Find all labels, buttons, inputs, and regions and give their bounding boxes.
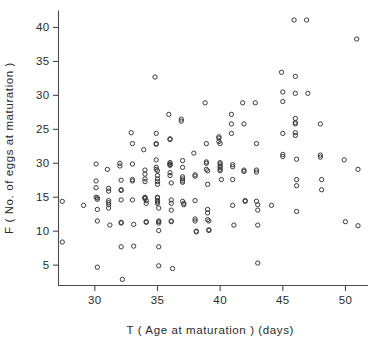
data-point	[94, 179, 98, 183]
data-point-group	[60, 18, 360, 282]
data-point	[293, 74, 297, 78]
data-point	[229, 122, 233, 126]
data-point	[108, 223, 112, 227]
y-tick-label: 35	[36, 55, 50, 67]
plot-canvas: 5101530253035403035404550T ( Age at matu…	[0, 0, 373, 341]
data-point	[319, 177, 323, 181]
x-tick-label: 40	[213, 294, 227, 306]
data-point	[132, 222, 136, 226]
data-point	[105, 167, 109, 171]
data-point	[294, 157, 298, 161]
data-point	[142, 148, 146, 152]
y-axis-title: F ( No. of eggs at maturation )	[3, 62, 15, 234]
data-point	[94, 186, 98, 190]
data-point	[170, 266, 174, 270]
y-tick-label: 10	[36, 225, 50, 237]
y-tick-label: 5	[43, 259, 50, 271]
data-point	[204, 141, 208, 145]
data-point	[281, 99, 285, 103]
data-point	[342, 158, 346, 162]
data-point	[318, 122, 322, 126]
data-point	[304, 18, 308, 22]
data-point	[293, 91, 297, 95]
data-point	[157, 245, 161, 249]
data-point	[180, 158, 184, 162]
data-point	[120, 277, 124, 281]
data-point	[154, 158, 158, 162]
data-point	[293, 133, 297, 137]
data-point	[60, 240, 64, 244]
data-point	[157, 206, 161, 210]
data-point	[306, 91, 310, 95]
data-point	[132, 244, 136, 248]
y-tick-label: 30	[36, 157, 50, 169]
data-point	[193, 198, 197, 202]
data-point	[60, 199, 64, 203]
data-point	[154, 131, 158, 135]
x-tick-label: 35	[151, 294, 165, 306]
data-point	[205, 182, 209, 186]
data-point	[229, 112, 233, 116]
data-point	[130, 198, 134, 202]
data-point	[95, 265, 99, 269]
data-point	[242, 122, 246, 126]
data-point	[153, 75, 157, 79]
x-axis-title: T ( Age at maturation ) (days)	[127, 324, 294, 336]
data-point	[95, 219, 99, 223]
data-point	[355, 37, 359, 41]
data-point	[169, 208, 173, 212]
data-point	[157, 228, 161, 232]
data-point	[95, 207, 99, 211]
data-point	[219, 177, 223, 181]
data-point	[169, 181, 173, 185]
y-tick-label: 15	[36, 191, 50, 203]
data-point	[231, 177, 235, 181]
data-point	[143, 179, 147, 183]
axis-spines	[59, 11, 369, 286]
data-point	[343, 220, 347, 224]
data-point	[119, 178, 123, 182]
data-point	[192, 151, 196, 155]
data-point	[231, 203, 235, 207]
data-point	[319, 188, 323, 192]
data-point	[269, 203, 273, 207]
data-point	[253, 101, 257, 105]
x-tick-label: 45	[276, 294, 290, 306]
y-tick-label: 30	[36, 89, 50, 101]
data-point	[129, 131, 133, 135]
data-point	[167, 112, 171, 116]
data-point	[180, 165, 184, 169]
data-point	[130, 141, 134, 145]
y-tick-label: 25	[36, 123, 50, 135]
scatter-plot-figure: 5101530253035403035404550T ( Age at matu…	[0, 0, 373, 341]
y-tick-label: 40	[36, 21, 50, 33]
data-point	[241, 101, 245, 105]
data-point	[356, 224, 360, 228]
data-point	[294, 177, 298, 181]
data-point	[281, 90, 285, 94]
data-point	[254, 141, 258, 145]
data-point	[229, 131, 233, 135]
data-point	[155, 182, 159, 186]
data-point	[294, 184, 298, 188]
data-point	[81, 203, 85, 207]
data-point	[94, 162, 98, 166]
data-point	[157, 264, 161, 268]
data-point	[256, 261, 260, 265]
data-point	[279, 70, 283, 74]
x-tick-label: 30	[88, 294, 102, 306]
data-point	[119, 198, 123, 202]
data-point	[281, 131, 285, 135]
data-point	[256, 223, 260, 227]
data-point	[292, 18, 296, 22]
data-point	[256, 208, 260, 212]
data-point	[106, 189, 110, 193]
data-point	[294, 209, 298, 213]
data-point	[232, 223, 236, 227]
data-point	[119, 245, 123, 249]
data-point	[168, 173, 172, 177]
data-point	[203, 101, 207, 105]
data-point	[356, 167, 360, 171]
data-point	[144, 201, 148, 205]
data-point	[130, 162, 134, 166]
